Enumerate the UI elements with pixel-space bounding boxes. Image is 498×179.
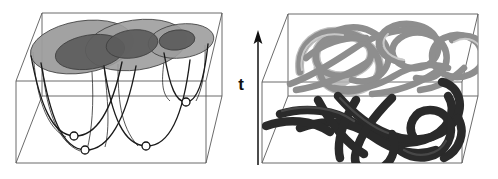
figure-root: t [0,0,498,179]
polymer-knot-panel [262,14,484,171]
minimum-marker-1 [70,132,78,140]
minimum-marker-4 [182,98,190,106]
left-box-edge-br [206,96,222,163]
tube-upper-chain [290,24,484,94]
minimum-marker-3 [142,142,150,150]
energy-landscape-panel [16,13,222,163]
basin-discs [27,13,216,81]
tube-lower-chain [266,82,462,171]
well-curve-3 [104,60,190,146]
right-box-edge-tl [262,14,288,82]
minimum-marker-2 [81,146,89,154]
time-axis: t [238,30,262,165]
left-box-front-face [16,81,206,163]
left-box-edge-bl [16,96,42,163]
well-curve-2 [41,63,136,150]
time-axis-label: t [238,75,244,94]
figure-svg: t [0,0,498,179]
